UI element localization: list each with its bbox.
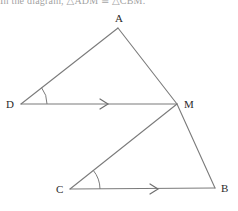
segment-CB <box>70 188 215 189</box>
segment-DA <box>21 28 118 104</box>
geometry-figure: In the diagram, △ADM ≅ △CBM. A D M C B <box>0 0 238 211</box>
angle-arc-C <box>93 170 100 189</box>
vertex-label-D: D <box>6 98 14 110</box>
vertex-label-A: A <box>115 12 123 24</box>
vertex-label-B: B <box>221 182 228 194</box>
segment-MB <box>177 104 215 188</box>
vertex-label-M: M <box>184 98 194 110</box>
geometry-canvas: A D M C B <box>0 0 238 211</box>
segment-MC <box>70 104 177 189</box>
parallel-arrow-CB-icon <box>150 184 158 194</box>
segment-AM <box>118 28 177 104</box>
vertex-label-C: C <box>56 183 63 195</box>
angle-arc-D <box>42 88 48 104</box>
